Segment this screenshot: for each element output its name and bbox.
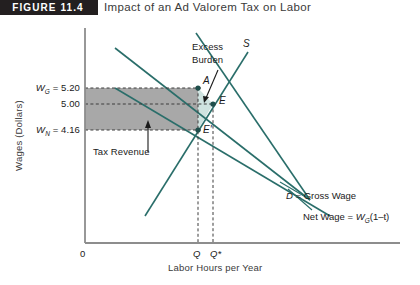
figure-title: Impact of an Ad Valorem Tax on Labor xyxy=(104,1,404,13)
tax-revenue-label: Tax Revenue xyxy=(93,146,150,157)
point-label-e: E xyxy=(219,95,226,106)
demand-curve-label-text: = Gross Wage xyxy=(293,190,356,201)
y-tick-net-value: 4.16 xyxy=(61,124,80,135)
supply-curve xyxy=(145,52,248,216)
excess-burden-label-line1: Excess xyxy=(192,41,223,52)
tax-revenue-region xyxy=(85,88,198,130)
figure-number-badge: FIGURE 11.4 xyxy=(0,0,98,15)
y-tick-market-value: 5.00 xyxy=(61,98,80,109)
net-wage-label-symbol: W xyxy=(356,211,365,222)
point-marker-e-prime xyxy=(195,127,200,132)
net-wage-curve-label: Net Wage = WG(1–t) xyxy=(303,211,389,224)
supply-curve-label: S xyxy=(243,38,250,49)
x-axis-title: Labor Hours per Year xyxy=(168,262,262,273)
demand-curve-label: D = Gross Wage xyxy=(286,190,356,201)
point-label-e-prime: E' xyxy=(203,124,212,135)
net-wage-label-suffix: (1–t) xyxy=(370,211,390,222)
x-tick-qstar: Q* xyxy=(210,248,221,259)
y-tick-gross-symbol: W xyxy=(36,82,45,93)
demand-curve-label-symbol: D xyxy=(286,190,293,201)
x-tick-origin: 0 xyxy=(80,248,85,259)
y-tick-net-symbol: W xyxy=(36,124,45,135)
y-tick-gross-wage: WG = 5.20 xyxy=(8,82,80,95)
y-tick-gross-equals: = xyxy=(50,82,61,93)
y-tick-net-equals: = xyxy=(50,124,61,135)
point-label-a: A xyxy=(203,75,210,86)
x-tick-q: Q xyxy=(193,248,200,259)
net-wage-label-prefix: Net Wage = xyxy=(303,211,356,222)
excess-burden-label-line2: Burden xyxy=(192,54,223,65)
y-tick-market-wage: 5.00 xyxy=(8,98,80,109)
y-tick-net-wage: WN = 4.16 xyxy=(8,124,80,137)
point-marker-e xyxy=(210,101,215,106)
y-tick-gross-value: 5.20 xyxy=(61,82,80,93)
point-marker-a xyxy=(195,85,200,90)
